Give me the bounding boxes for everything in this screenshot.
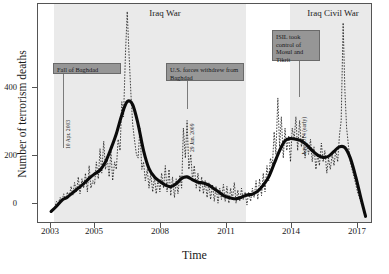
x-tick-label-2011: 2011 xyxy=(217,226,235,236)
era-label-iraq-civil-war: Iraq Civil War xyxy=(307,8,359,18)
data-series-svg xyxy=(38,4,371,222)
annotation-us-forces-withdrew: U.S. forces withdrew from Baghdad xyxy=(166,63,244,81)
era-label-iraq-war: Iraq War xyxy=(149,8,180,18)
annotation-date-1: 10 Apr. 2003 xyxy=(65,120,71,149)
annotation-leader-1 xyxy=(63,74,64,148)
annotation-date-2: 29 Jan. 2009 xyxy=(189,124,195,152)
x-tick-label-2008: 2008 xyxy=(151,226,169,236)
y-tick-label-0: 0 xyxy=(13,198,17,208)
y-tick-label-400: 400 xyxy=(4,82,17,92)
annotation-isil-mosul-tikrit: ISIL took control of Mosul and Tikrit xyxy=(272,30,320,61)
annotation-date-3: Jun. 2014 (early) xyxy=(301,117,307,155)
annotation-leader-3 xyxy=(299,61,300,97)
x-tick-label-2014: 2014 xyxy=(282,226,300,236)
annotation-leader-2 xyxy=(187,81,188,109)
x-axis-title: Time xyxy=(0,248,389,263)
chart-figure: Number of terrorism deaths 400 200 0 200… xyxy=(0,0,389,274)
x-tick-label-2003: 2003 xyxy=(41,226,59,236)
annotation-fall-of-baghdad: Fall of Baghdad xyxy=(53,63,121,74)
plot-area xyxy=(37,3,372,223)
x-tick-label-2017: 2017 xyxy=(348,226,366,236)
x-tick-label-2005: 2005 xyxy=(85,226,103,236)
y-axis-title: Number of terrorism deaths xyxy=(16,39,28,189)
y-tick-label-200: 200 xyxy=(4,150,17,160)
